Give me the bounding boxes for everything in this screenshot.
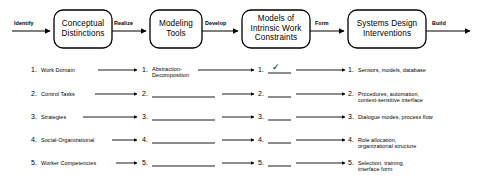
list-number-c3-r3: 3.: [258, 113, 264, 120]
list-number-c2-r1: 1.: [142, 66, 148, 73]
flow-box-label-2: Modeling Tools: [150, 19, 202, 38]
list-number-c1-r2: 2.: [31, 90, 37, 97]
list-number-c1-r4: 4.: [31, 136, 37, 143]
list-number-c2-r3: 3.: [142, 113, 148, 120]
list-number-c1-r1: 1.: [31, 66, 37, 73]
list-item-c4-r1: Sensors, models, database: [358, 67, 476, 73]
edge-label-develop: Develop: [205, 20, 226, 26]
list-number-c4-r4: 4.: [348, 136, 354, 143]
blank-fill-in-lines: [152, 73, 291, 166]
flow-box-label-1: Conceptual Distinctions: [54, 19, 112, 38]
list-item-c4-r3: Dialogue modes, process flow: [358, 114, 476, 120]
list-number-c3-r4: 4.: [258, 136, 264, 143]
flow-box-label-3: Models of Intrinsic Work Constraints: [242, 14, 310, 43]
list-item-c4-r2: Procedures, automation, context-sensitiv…: [358, 91, 476, 104]
list-number-c1-r5: 5.: [31, 159, 37, 166]
list-number-c3-r5: 5.: [258, 159, 264, 166]
edge-label-realize: Realize: [114, 20, 133, 26]
list-number-c4-r1: 1.: [348, 66, 354, 73]
edge-label-build: Build: [432, 20, 446, 26]
diagram-canvas: Conceptual Distinctions Modeling Tools M…: [0, 0, 481, 178]
edge-label-form: Form: [315, 20, 329, 26]
list-number-c2-r5: 5.: [142, 159, 148, 166]
list-item-c1-r2: Control Tasks: [41, 91, 103, 97]
list-item-c1-r4: Social-Organizational: [41, 137, 116, 143]
list-number-c4-r2: 2.: [348, 90, 354, 97]
checkmark-icon: ✓: [272, 63, 280, 72]
list-number-c3-r1: 1.: [258, 66, 264, 73]
list-number-c2-r4: 4.: [142, 136, 148, 143]
list-number-c4-r5: 5.: [348, 159, 354, 166]
list-number-c2-r2: 2.: [142, 90, 148, 97]
column-connector-arrows: [83, 70, 345, 163]
list-item-c2-r1: Abstraction- Decomposition: [152, 66, 212, 79]
flow-box-label-4: Systems Design Interventions: [348, 19, 426, 38]
list-number-c3-r2: 2.: [258, 90, 264, 97]
edge-label-identify: Identify: [14, 20, 34, 26]
list-item-c1-r3: Strategies: [41, 114, 103, 120]
list-item-c1-r1: Work Domain: [41, 67, 103, 73]
list-item-c4-r4: Role allocation, organizational structur…: [358, 137, 476, 150]
list-number-c4-r3: 3.: [348, 113, 354, 120]
list-item-c1-r5: Worker Competencies: [41, 160, 119, 166]
list-number-c1-r3: 3.: [31, 113, 37, 120]
list-item-c4-r5: Selection, training, interface form: [358, 160, 476, 173]
